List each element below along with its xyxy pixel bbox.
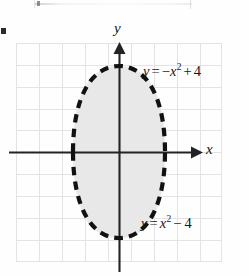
equation-lower-eq: = [150,215,158,231]
equation-upper-op: + [184,63,192,79]
equation-label-lower: y=x2−4 [141,215,192,232]
figure-container: y x y=−x2+4 y=x2−4 [0,0,249,276]
equation-upper-eq: = [152,63,160,79]
equation-upper-lhs: y [143,63,150,79]
equation-label-upper: y=−x2+4 [143,63,201,80]
equation-lower-lhs: y [141,215,148,231]
x-axis-arrowhead [191,147,203,159]
y-axis-label: y [114,20,121,37]
coordinate-plane [0,0,249,276]
equation-lower-exponent: 2 [166,214,171,224]
equation-lower-op: − [173,215,181,231]
equation-lower-constant: 4 [185,215,192,231]
equation-upper-exponent: 2 [177,62,182,72]
x-axis-label: x [206,141,213,158]
equation-upper-sign: − [162,63,170,79]
equation-upper-constant: 4 [194,63,201,79]
